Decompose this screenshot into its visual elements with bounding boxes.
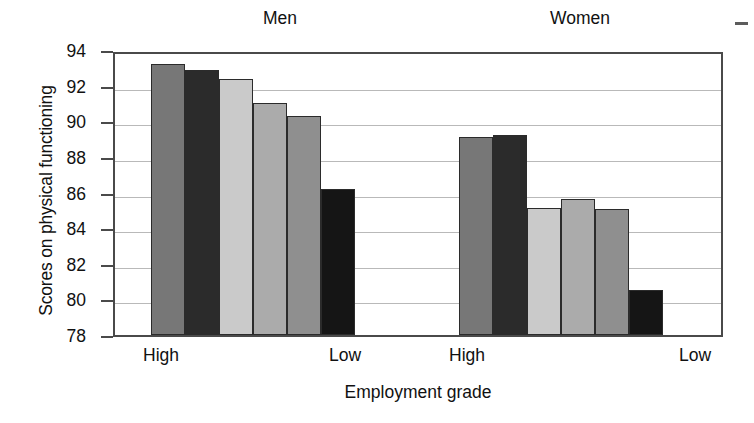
y-tick-label: 92 <box>40 79 86 97</box>
y-tick-mark <box>101 158 113 160</box>
bar-men-6 <box>321 189 355 335</box>
group-header-men: Men <box>190 8 370 29</box>
y-tick-label: 88 <box>40 150 86 168</box>
y-tick-mark <box>101 51 113 53</box>
y-tick-label: 94 <box>40 43 86 61</box>
bar-men-4 <box>253 103 287 335</box>
group-header-women: Women <box>490 8 670 29</box>
bar-women-5 <box>595 209 629 335</box>
bar-men-3 <box>219 79 253 336</box>
plot-area <box>113 52 723 337</box>
bar-chart-figure: Scores on physical functioning Men Women… <box>0 0 754 423</box>
x-category-women-low: Low <box>650 345 740 366</box>
bar-men-1 <box>151 64 185 335</box>
x-category-men-high: High <box>116 345 206 366</box>
bar-women-4 <box>561 199 595 335</box>
y-tick-label: 78 <box>40 328 86 346</box>
y-tick-label: 84 <box>40 221 86 239</box>
x-category-men-low: Low <box>300 345 390 366</box>
y-tick-mark <box>101 300 113 302</box>
y-tick-mark <box>101 122 113 124</box>
y-tick-mark <box>101 265 113 267</box>
y-tick-label: 90 <box>40 115 86 133</box>
y-tick-mark <box>101 87 113 89</box>
bar-women-2 <box>493 135 527 335</box>
y-tick-mark <box>101 194 113 196</box>
bar-men-2 <box>185 70 219 335</box>
y-tick-label: 80 <box>40 293 86 311</box>
bar-women-1 <box>459 137 493 335</box>
y-tick-label: 82 <box>40 257 86 275</box>
corner-dash-mark <box>735 22 748 25</box>
x-category-women-high: High <box>422 345 512 366</box>
bar-women-3 <box>527 208 561 335</box>
y-tick-label-group: 949290888684828078 <box>40 52 86 337</box>
y-tick-label: 86 <box>40 186 86 204</box>
bar-men-5 <box>287 116 321 335</box>
bar-women-6 <box>629 290 663 335</box>
y-tick-mark <box>101 229 113 231</box>
x-axis-title: Employment grade <box>113 382 723 403</box>
y-tick-mark <box>101 336 113 338</box>
